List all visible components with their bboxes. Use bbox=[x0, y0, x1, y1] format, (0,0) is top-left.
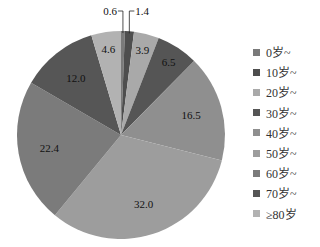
legend-label: 30岁~ bbox=[266, 104, 297, 122]
legend-label: ≥80岁 bbox=[266, 205, 297, 223]
legend: 0岁~10岁~20岁~30岁~40岁~50岁~60岁~70岁~≥80岁 bbox=[253, 42, 297, 224]
legend-swatch bbox=[253, 150, 260, 157]
legend-swatch bbox=[253, 69, 260, 76]
legend-item: 70岁~ bbox=[253, 183, 297, 203]
legend-label: 50岁~ bbox=[266, 144, 297, 162]
legend-item: 50岁~ bbox=[253, 143, 297, 163]
leader-line bbox=[129, 11, 134, 33]
legend-item: 10岁~ bbox=[253, 62, 297, 82]
legend-label: 70岁~ bbox=[266, 184, 297, 202]
legend-label: 60岁~ bbox=[266, 164, 297, 182]
legend-swatch bbox=[253, 210, 260, 217]
legend-item: ≥80岁 bbox=[253, 204, 297, 224]
slice-value-label: 4.6 bbox=[102, 43, 116, 55]
legend-item: 60岁~ bbox=[253, 163, 297, 183]
leader-line bbox=[118, 11, 123, 33]
slice-value-label: 6.5 bbox=[162, 56, 176, 68]
slice-value-label: 0.6 bbox=[103, 5, 117, 17]
legend-swatch bbox=[253, 170, 260, 177]
slice-value-label: 1.4 bbox=[135, 5, 149, 17]
slice-value-label: 3.9 bbox=[136, 44, 150, 56]
legend-item: 30岁~ bbox=[253, 103, 297, 123]
slice-value-label: 16.5 bbox=[181, 109, 201, 121]
legend-swatch bbox=[253, 89, 260, 96]
legend-label: 20岁~ bbox=[266, 83, 297, 101]
legend-label: 40岁~ bbox=[266, 124, 297, 142]
slice-value-label: 22.4 bbox=[40, 142, 60, 154]
slice-value-label: 32.0 bbox=[134, 198, 154, 210]
legend-swatch bbox=[253, 129, 260, 136]
legend-item: 40岁~ bbox=[253, 123, 297, 143]
legend-item: 0岁~ bbox=[253, 42, 297, 62]
legend-label: 10岁~ bbox=[266, 63, 297, 81]
legend-label: 0岁~ bbox=[266, 43, 291, 61]
legend-swatch bbox=[253, 109, 260, 116]
slice-value-label: 12.0 bbox=[66, 72, 86, 84]
legend-swatch bbox=[253, 49, 260, 56]
legend-item: 20岁~ bbox=[253, 82, 297, 102]
legend-swatch bbox=[253, 190, 260, 197]
